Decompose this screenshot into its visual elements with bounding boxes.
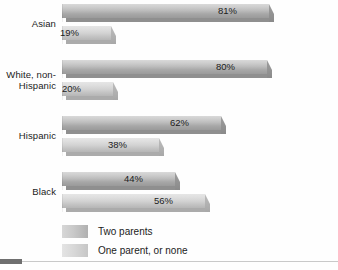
bar-face — [62, 4, 269, 18]
category-label: Hispanic — [0, 130, 56, 142]
bar-value-label: 44% — [124, 173, 143, 184]
category-label-line: Black — [0, 186, 56, 198]
category-label-line: Asian — [0, 18, 56, 30]
bottom-divider — [0, 261, 338, 262]
legend-label: Two parents — [98, 224, 152, 239]
bar-group: Hispanic62%38% — [0, 116, 338, 156]
category-label-line: White, non- — [0, 69, 56, 81]
bar-face — [62, 116, 221, 130]
bar-left-edge — [62, 116, 63, 134]
category-label: Black — [0, 186, 56, 198]
bar-face — [62, 60, 267, 74]
category-label-line: Hispanic — [0, 80, 56, 92]
bar-shadow-face — [66, 152, 163, 156]
bar-face — [62, 194, 205, 208]
bar-value-label: 20% — [62, 83, 81, 94]
bar-chart: Asian81%19%White, non-Hispanic80%20%Hisp… — [0, 0, 338, 270]
bar — [62, 116, 226, 134]
bar-end-cap — [269, 4, 274, 22]
bar-left-edge — [62, 4, 63, 22]
chart-legend: Two parentsOne parent, or none — [62, 224, 322, 262]
bar-left-edge — [62, 138, 63, 156]
bar-face — [62, 172, 175, 186]
bar-shadow-face — [66, 18, 273, 22]
bar-end-cap — [205, 194, 210, 212]
bar-value-label: 81% — [218, 5, 237, 16]
bar-value-label: 62% — [170, 117, 189, 128]
category-label: Asian — [0, 18, 56, 30]
bar-shadow-face — [66, 130, 225, 134]
bar-shadow-face — [66, 186, 179, 190]
bar-body — [62, 60, 267, 78]
legend-item[interactable]: One parent, or none — [62, 243, 322, 259]
bar-body — [62, 172, 175, 190]
bar-value-label: 56% — [154, 195, 173, 206]
bar-end-cap — [221, 116, 226, 134]
category-label: White, non-Hispanic — [0, 69, 56, 92]
legend-swatch — [62, 225, 88, 238]
bar — [62, 172, 180, 190]
legend-item[interactable]: Two parents — [62, 224, 322, 240]
bar-body — [62, 116, 221, 134]
bar-value-label: 38% — [108, 139, 127, 150]
bar — [62, 194, 210, 212]
bar-group: Asian81%19% — [0, 4, 338, 44]
bar-end-cap — [267, 60, 272, 78]
bar-value-label: 19% — [60, 27, 79, 38]
bar-value-label: 80% — [216, 61, 235, 72]
bar-end-cap — [159, 138, 164, 156]
bar-shadow-face — [66, 74, 271, 78]
bar-shadow-face — [66, 208, 209, 212]
category-label-line: Hispanic — [0, 130, 56, 142]
bar-body — [62, 4, 269, 22]
bar-end-cap — [175, 172, 180, 190]
bar-group: Black44%56% — [0, 172, 338, 212]
bar — [62, 60, 272, 78]
bottom-left-tab — [0, 259, 22, 264]
plot-area: Asian81%19%White, non-Hispanic80%20%Hisp… — [0, 0, 338, 218]
bar-left-edge — [62, 60, 63, 78]
legend-swatch — [62, 244, 88, 257]
bar-end-cap — [113, 82, 118, 100]
bar-left-edge — [62, 172, 63, 190]
bar — [62, 4, 274, 22]
bar-shadow-face — [66, 96, 117, 100]
legend-label: One parent, or none — [98, 243, 188, 258]
bar-end-cap — [111, 26, 116, 44]
bar-shadow-face — [66, 40, 115, 44]
bar-body — [62, 194, 205, 212]
bar-group: White, non-Hispanic80%20% — [0, 60, 338, 100]
bar-left-edge — [62, 194, 63, 212]
